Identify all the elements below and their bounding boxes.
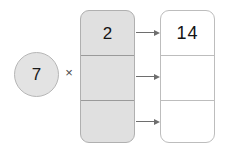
product-cell-3[interactable]: [161, 100, 214, 142]
arrow-row-2-icon: [136, 72, 160, 81]
multiplier-value: 7: [32, 66, 41, 83]
multiplication-sign-icon: ×: [62, 66, 76, 80]
multiplier-circle[interactable]: 7: [14, 52, 59, 97]
arrow-shaft: [136, 76, 155, 77]
diagram-canvas: 7 × 2 14: [0, 0, 227, 152]
factor-cell-3[interactable]: [81, 100, 134, 142]
arrow-shaft: [136, 32, 155, 33]
product-column: 14: [160, 10, 215, 143]
factor-column: 2: [80, 10, 135, 143]
factor-cell-2[interactable]: [81, 55, 134, 100]
arrow-shaft: [136, 121, 155, 122]
arrow-row-1-icon: [136, 28, 160, 37]
factor-cell-1-value: 2: [103, 25, 112, 42]
factor-cell-1[interactable]: 2: [81, 11, 134, 55]
product-cell-2[interactable]: [161, 55, 214, 100]
arrow-row-3-icon: [136, 117, 160, 126]
product-cell-1-value: 14: [176, 24, 198, 42]
product-cell-1[interactable]: 14: [161, 11, 214, 55]
